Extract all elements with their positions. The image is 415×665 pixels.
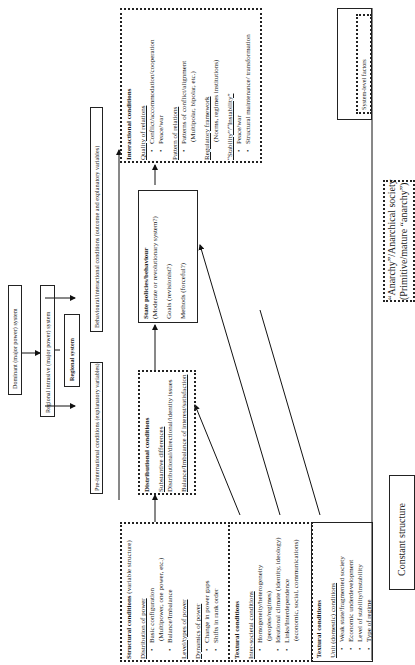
interactional-conditions-box: Interactional conditions Quality of rela… [120,8,262,163]
structural-heading: Level/types of power [180,524,189,659]
interactional-item: Peace/war [157,10,166,160]
constant-structure-label: Constant structure [396,503,408,576]
textural-item: Homogeneity/heterogeneity [256,524,265,659]
unit-item: Type of regime [365,523,374,658]
structural-item: Basic configuration [148,524,157,659]
textural-item: (economic, social, communications) [292,524,301,659]
structural-subtitle: (variable structure) [125,540,133,593]
unit-heading: Unit (domestic) conditions [329,523,338,658]
textural-heading: Inter-societal conditions [247,524,256,659]
distributional-heading: Substantive differences [157,372,166,492]
interactional-heading: Pattern of relations [171,10,180,160]
structural-conditions-box: Structural conditions (variable structur… [120,522,230,662]
behavioural-label: Behavioural/interactional conditions (ou… [93,146,101,328]
interactional-heading: Quality of relations [139,10,148,160]
state-policies-item: Goals (revisionist?) [165,191,174,319]
structural-item: (Multipower, one power, etc.) [157,524,166,659]
regional-system-label: Regional system [68,338,76,381]
structural-item: Change in power gaps [203,524,212,659]
interactional-item: Conflict/accommodation/cooperation [148,10,157,160]
textural-item: (peoples/regimes) [265,524,274,659]
textural-item: Ideational climate (identity, ideology) [274,524,283,659]
state-policies-item: (Moderate or revolutionary system?) [151,191,160,319]
unit-title: Textural conditions [315,523,324,658]
regional-system-box: Regional system [64,314,80,387]
constant-structure-box: Constant structure [389,475,415,590]
interactional-item: Peace/war [235,10,244,160]
unit-item: Economic underdevelopment [347,523,356,658]
textural-title: Textural conditions [233,524,242,659]
textural-item: Links/Interdependence [283,524,292,659]
interactional-heading: “Stability”/“Instability” [226,10,235,160]
pre-international-label: Pre-international conditions (explanator… [93,363,101,491]
system-level-factors-box: System-level factors [356,14,372,114]
structural-heading: Dynamics of power [194,524,203,659]
state-policies-box: State policies/behaviour (Moderate or re… [138,190,198,323]
dominant-system-label: Dominant (major power) system [11,308,19,389]
regional-intrusive-label: Regional intrusive (major power) system [44,312,52,413]
interactional-item: (Multipolar, bipolar, etc.) [189,10,198,160]
textural-intersocietal-box: Textural conditions Inter-societal condi… [228,522,313,662]
distributional-title: Distributional conditions [143,372,152,492]
textural-unit-box: Textural conditions Unit (domestic) cond… [311,522,373,662]
structural-item: Shifts in rank order [212,524,221,659]
interactional-item: Structural maintenance/ transformation [244,10,253,160]
anarchy-line1: “Anarchy”/Anarchical society [386,182,398,300]
distributional-item: Balance/Imbalance of interest/satisfacti… [180,372,189,492]
structural-item: Balance/Imbalance [166,524,175,659]
structural-title: Structural conditions [125,595,133,659]
state-policies-title: State policies/behaviour [142,191,151,319]
interactional-title: Interactional conditions [125,10,134,160]
interactional-item: Patterns of conflict/alignment [180,10,189,160]
regional-intrusive-box: Regional intrusive (major power) system [40,285,55,417]
state-policies-item: Methods (forceful?) [179,191,188,319]
distributional-conditions-box: Distributional conditions Substantive di… [138,370,196,495]
interactional-item: (Norms, regimes institutions) [212,10,221,160]
pre-international-header: Pre-international conditions (explanator… [90,362,103,494]
structural-heading: Distribution of power [139,524,148,659]
behavioural-header: Behavioural/interactional conditions (ou… [90,107,103,332]
distributional-item: Distributional/directional/identity issu… [166,372,175,492]
unit-item: Weak state/fragmented society [338,523,347,658]
unit-item: Level of stability/instability [356,523,365,658]
anarchy-line2: (Primitive/mature “anarchy”) [398,182,410,300]
system-level-label: System-level factors [360,59,368,110]
interactional-heading: Regulatory framework [203,10,212,160]
anarchy-box: “Anarchy”/Anarchical society (Primitive/… [383,180,415,302]
dominant-system-box: Dominant (major power) system [8,285,22,395]
